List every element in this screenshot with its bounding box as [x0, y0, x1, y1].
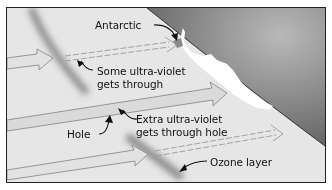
ozone-layer-band — [31, 8, 182, 178]
label-extra-uv-line2: gets through hole — [136, 126, 227, 138]
label-extra-uv-line1: Extra ultra-violet — [136, 113, 222, 125]
label-hole: Hole — [67, 128, 90, 140]
uv-arrow-dashed-top — [65, 37, 177, 61]
uv-arrow-bottom — [7, 145, 148, 180]
label-ozone-layer: Ozone layer — [210, 156, 272, 168]
label-some-uv-line2: gets through — [97, 78, 163, 90]
label-antarctic: Antarctic — [95, 19, 141, 31]
diagram-frame: Antarctic Some ultra-violet gets through… — [6, 7, 326, 183]
label-some-uv-line1: Some ultra-violet — [97, 65, 185, 77]
uv-arrow-top-left — [7, 49, 53, 70]
diagram-canvas — [7, 8, 325, 182]
